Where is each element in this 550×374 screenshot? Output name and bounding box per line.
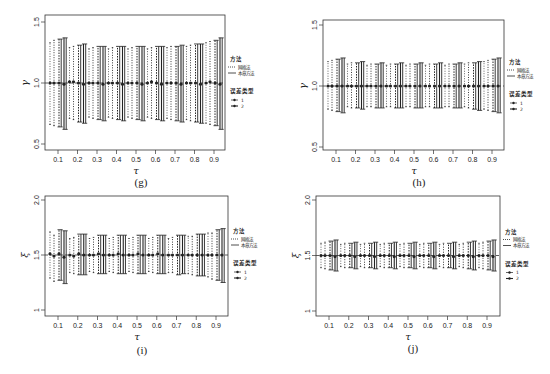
point-estimate <box>96 81 99 84</box>
error-bar <box>389 64 392 107</box>
error-bar <box>452 64 457 108</box>
point-estimate <box>101 83 104 86</box>
point-estimate <box>185 81 188 84</box>
point-estimate <box>368 254 371 257</box>
point-estimate <box>408 84 411 87</box>
error-bar <box>379 244 382 266</box>
error-bar <box>218 38 223 130</box>
point-estimate <box>442 254 445 257</box>
legend-error-type-label: 2 <box>516 276 519 281</box>
point-estimate <box>161 253 164 256</box>
error-bar <box>330 60 333 110</box>
point-estimate <box>467 254 470 257</box>
error-bar <box>77 234 82 275</box>
error-bar <box>165 48 168 119</box>
point-estimate <box>438 84 441 87</box>
point-estimate <box>52 81 55 84</box>
point-estimate <box>339 254 342 257</box>
point-estimate <box>477 84 480 87</box>
panel-caption: (j) <box>408 342 419 355</box>
legend-method-label: 网格法 <box>241 236 254 243</box>
y-tick-label: 1.5 <box>311 20 318 30</box>
point-estimate <box>155 81 158 84</box>
legend-method-title: 方法 <box>230 55 242 63</box>
legend: 方法网格法本章方法误差类型12 <box>503 228 530 282</box>
error-bar <box>496 58 501 113</box>
point-estimate <box>130 81 133 84</box>
point-estimate <box>140 83 143 86</box>
point-estimate <box>333 255 336 258</box>
x-tick-label: 0.2 <box>344 322 354 329</box>
error-bar <box>447 64 450 107</box>
point-estimate <box>220 253 223 256</box>
x-tick-label: 0.8 <box>190 156 200 163</box>
legend-marker <box>236 277 238 279</box>
error-bar <box>127 239 130 272</box>
x-tick-label: 0.2 <box>73 156 83 163</box>
y-tick-label: 1 <box>33 308 40 312</box>
point-estimate <box>199 83 202 86</box>
error-bar <box>215 230 220 281</box>
point-estimate <box>72 80 75 83</box>
point-estimate <box>82 253 85 256</box>
legend-error-type-label: 1 <box>241 98 244 103</box>
error-bar <box>62 231 67 284</box>
point-estimate <box>343 254 346 257</box>
error-bar <box>88 239 91 272</box>
x-tick-label: 0.4 <box>390 156 400 163</box>
y-tick-label: 2.0 <box>304 195 311 205</box>
error-bar <box>87 49 90 117</box>
point-estimate <box>179 83 182 86</box>
point-estimate <box>482 84 485 87</box>
point-estimate <box>340 84 343 87</box>
point-estimate <box>452 255 455 258</box>
point-estimate <box>491 255 494 258</box>
x-tick-label: 0.9 <box>487 156 497 163</box>
x-tick-label: 0.8 <box>191 322 201 329</box>
x-tick-label: 0.5 <box>131 156 141 163</box>
point-estimate <box>189 81 192 84</box>
point-estimate <box>160 83 163 86</box>
legend-error-type-label: 1 <box>244 270 247 275</box>
y-axis-title: γ <box>297 83 308 89</box>
error-bar <box>404 65 407 106</box>
x-axis-title: τ <box>411 165 417 176</box>
point-estimate <box>472 255 475 258</box>
point-estimate <box>187 253 190 256</box>
error-bar <box>457 63 462 108</box>
x-tick-label: 0.3 <box>92 156 102 163</box>
point-estimate <box>77 252 80 255</box>
legend-marker <box>236 271 238 273</box>
x-axis-title: τ <box>405 331 411 342</box>
point-estimate <box>57 81 60 84</box>
error-bar <box>169 46 172 119</box>
error-bar <box>413 64 418 108</box>
point-estimate <box>486 254 489 257</box>
legend-error-type-title: 误差类型 <box>509 90 533 98</box>
point-estimate <box>379 84 382 87</box>
legend-error-type-label: 2 <box>241 104 244 109</box>
x-tick-label: 0.5 <box>132 322 142 329</box>
y-tick-label: 2.0 <box>33 195 40 205</box>
point-estimate <box>62 83 65 86</box>
legend-method-label: 网格法 <box>238 64 251 71</box>
error-bar <box>140 46 145 120</box>
point-estimate <box>350 84 353 87</box>
legend-marker <box>508 277 510 279</box>
point-estimate <box>122 253 125 256</box>
x-tick-label: 0.4 <box>383 322 393 329</box>
error-bar <box>491 240 496 271</box>
point-estimate <box>427 254 430 257</box>
legend-error-type-label: 1 <box>520 101 523 106</box>
error-bar <box>101 46 106 120</box>
error-bar <box>463 64 466 107</box>
y-tick-label: 1 <box>304 309 311 313</box>
error-bar <box>418 244 421 266</box>
legend-error-type-title: 误差类型 <box>230 87 254 95</box>
error-bar <box>438 244 441 266</box>
error-bar <box>355 63 360 108</box>
error-bar <box>111 48 114 119</box>
point-estimate <box>457 84 460 87</box>
y-tick-label: 1.5 <box>304 251 311 261</box>
error-bar <box>204 43 207 124</box>
